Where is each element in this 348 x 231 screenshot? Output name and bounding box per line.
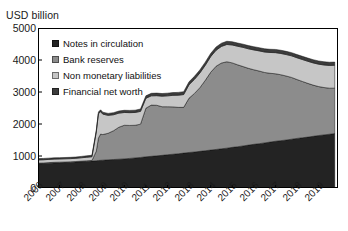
- y-tick-label: 3000: [2, 87, 36, 98]
- chart-container: USD billion 500040003000200010000 200620…: [0, 0, 348, 231]
- legend-swatch-icon: [52, 56, 59, 63]
- legend-swatch-icon: [52, 40, 59, 47]
- legend-swatch-icon: [52, 72, 59, 79]
- legend-item-label: Bank reserves: [63, 55, 124, 65]
- legend-item: Bank reserves: [52, 52, 202, 67]
- legend-item-label: Non monetary liabilities: [63, 71, 161, 81]
- y-tick-label: 1000: [2, 151, 36, 162]
- legend-swatch-icon: [52, 88, 59, 95]
- x-axis-tick-labels: 2006200720082009201020112012201320142015…: [0, 188, 348, 231]
- legend-item: Non monetary liabilities: [52, 68, 202, 83]
- legend-item: Financial net worth: [52, 84, 202, 99]
- legend-item: Notes in circulation: [52, 36, 202, 51]
- y-tick-label: 5000: [2, 23, 36, 34]
- chart-legend: Notes in circulationBank reservesNon mon…: [52, 36, 202, 100]
- y-tick-label: 4000: [2, 55, 36, 66]
- legend-item-label: Notes in circulation: [63, 39, 143, 49]
- legend-item-label: Financial net worth: [63, 87, 143, 97]
- y-tick-label: 2000: [2, 119, 36, 130]
